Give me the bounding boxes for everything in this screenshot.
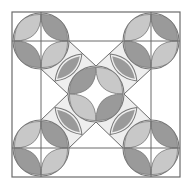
corner-circle-bottom-left — [13, 120, 69, 176]
pattern-svg — [0, 0, 192, 183]
corner-circle-top-right — [123, 13, 179, 69]
corner-circle-top-left — [13, 13, 69, 69]
circle-motifs — [13, 13, 179, 176]
center-circle — [68, 66, 124, 122]
quilt-pattern-diagram — [0, 0, 192, 183]
corner-circle-bottom-right — [123, 120, 179, 176]
